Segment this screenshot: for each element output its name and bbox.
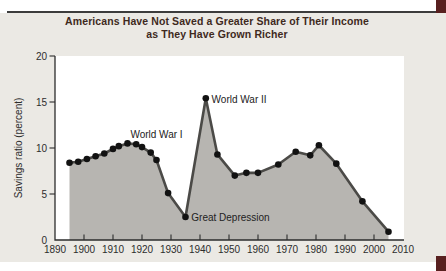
data-point-1956 [243,170,250,177]
x-tick-label-1890: 1890 [44,244,67,255]
annotation-world-war-i: World War I [130,129,182,140]
data-point-1925 [153,157,160,164]
x-tick-label-1940: 1940 [189,244,212,255]
data-point-1915 [124,140,131,147]
data-point-1935 [182,214,189,221]
data-point-1901 [84,156,91,163]
data-point-1952 [232,172,239,179]
y-tick-label-10: 10 [36,143,48,154]
data-point-1978 [307,152,314,159]
x-tick-label-1930: 1930 [160,244,183,255]
x-tick-label-1960: 1960 [247,244,270,255]
data-point-1907 [101,150,108,157]
data-point-1920 [139,144,146,151]
x-tick-label-2010: 2010 [392,244,415,255]
data-point-1929 [165,190,172,197]
data-point-1918 [133,141,140,148]
y-tick-label-5: 5 [41,189,47,200]
data-point-1942 [203,95,210,102]
data-point-1987 [333,160,340,167]
data-point-2005 [385,228,392,235]
y-tick-label-20: 20 [36,51,48,62]
y-tick-label-15: 15 [36,97,48,108]
data-point-1996 [359,198,366,205]
x-tick-label-1910: 1910 [102,244,125,255]
savings-ratio-chart: 1890190019101920193019401950196019701980… [0,0,446,271]
data-point-1912 [116,143,123,150]
x-tick-label-1980: 1980 [305,244,328,255]
x-tick-label-1990: 1990 [334,244,357,255]
data-point-1973 [292,148,299,155]
data-point-1946 [214,151,221,158]
data-point-1895 [66,159,73,166]
y-axis-title: Savings ratio (percent) [13,98,24,199]
data-point-1910 [110,146,117,153]
x-tick-label-1970: 1970 [276,244,299,255]
textbook-figure: Americans Have Not Saved a Greater Share… [0,0,446,271]
y-tick-label-0: 0 [41,235,47,246]
x-tick-label-2000: 2000 [363,244,386,255]
data-point-1923 [147,149,154,156]
data-point-1967 [275,161,282,168]
x-tick-label-1950: 1950 [218,244,241,255]
data-point-1981 [316,142,323,149]
data-point-1960 [255,170,262,177]
data-point-1898 [75,159,82,166]
x-tick-label-1900: 1900 [73,244,96,255]
annotation-great-depression: Great Depression [191,212,269,223]
annotation-world-war-ii: World War II [212,94,267,105]
data-point-1904 [92,153,99,160]
x-tick-label-1920: 1920 [131,244,154,255]
